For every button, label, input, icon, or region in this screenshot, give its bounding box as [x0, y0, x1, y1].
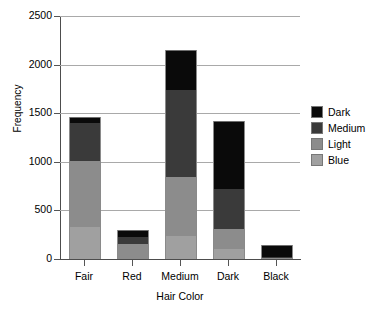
bar-segment-blue — [166, 236, 196, 259]
bar-segment-light — [214, 229, 244, 249]
legend-label: Blue — [328, 154, 349, 166]
bar-black — [261, 245, 293, 259]
bar-segment-medium — [118, 237, 148, 244]
bar-segment-medium — [214, 189, 244, 229]
x-axis-tick-mark — [276, 260, 277, 266]
bar-segment-dark — [118, 230, 148, 237]
y-axis-tick-label: 500 — [18, 204, 52, 215]
stacked-bar-chart: Frequency 05001000150020002500 Hair Colo… — [0, 0, 379, 310]
bar-segment-light — [166, 177, 196, 236]
legend-swatch-light — [311, 138, 323, 150]
y-axis-tick-label: 2000 — [18, 59, 52, 70]
legend-label: Light — [328, 138, 351, 150]
legend-item-medium: Medium — [311, 120, 365, 136]
bar-segment-blue — [214, 249, 244, 259]
y-axis-tick-mark — [54, 113, 60, 114]
bar-segment-light — [70, 161, 100, 227]
x-axis-title: Hair Color — [60, 290, 300, 302]
x-axis-tick-mark — [228, 260, 229, 266]
x-axis-tick-mark — [132, 260, 133, 266]
y-axis-tick-label: 2500 — [18, 10, 52, 21]
bar-segment-medium — [166, 90, 196, 177]
y-axis-tick-mark — [54, 162, 60, 163]
bar-fair — [69, 117, 101, 259]
y-axis-tick-label: 1500 — [18, 107, 52, 118]
gridline — [60, 16, 300, 17]
legend-item-blue: Blue — [311, 152, 365, 168]
bar-segment-dark — [262, 245, 292, 257]
y-axis-tick-mark — [54, 65, 60, 66]
x-axis-tick-label: Black — [241, 270, 311, 282]
bar-segment-dark — [166, 50, 196, 90]
bar-red — [117, 230, 149, 259]
chart-legend: DarkMediumLightBlue — [311, 104, 365, 168]
legend-label: Dark — [328, 106, 350, 118]
legend-swatch-blue — [311, 154, 323, 166]
y-axis-tick-mark — [54, 16, 60, 17]
legend-swatch-dark — [311, 106, 323, 118]
bar-segment-medium — [70, 123, 100, 161]
legend-label: Medium — [328, 122, 365, 134]
y-axis-tick-label: 0 — [18, 253, 52, 264]
legend-item-light: Light — [311, 136, 365, 152]
bar-segment-blue — [70, 227, 100, 259]
y-axis-tick-label: 1000 — [18, 156, 52, 167]
legend-item-dark: Dark — [311, 104, 365, 120]
bar-segment-light — [262, 258, 292, 259]
y-axis-tick-mark — [54, 210, 60, 211]
x-axis-tick-mark — [180, 260, 181, 266]
bar-segment-light — [118, 244, 148, 259]
bar-segment-dark — [214, 121, 244, 189]
y-axis-tick-mark — [54, 259, 60, 260]
x-axis-tick-mark — [84, 260, 85, 266]
bar-medium — [165, 50, 197, 259]
bar-dark — [213, 121, 245, 259]
legend-swatch-medium — [311, 122, 323, 134]
plot-area — [60, 16, 300, 259]
y-axis-tick-labels: 05001000150020002500 — [18, 0, 52, 310]
